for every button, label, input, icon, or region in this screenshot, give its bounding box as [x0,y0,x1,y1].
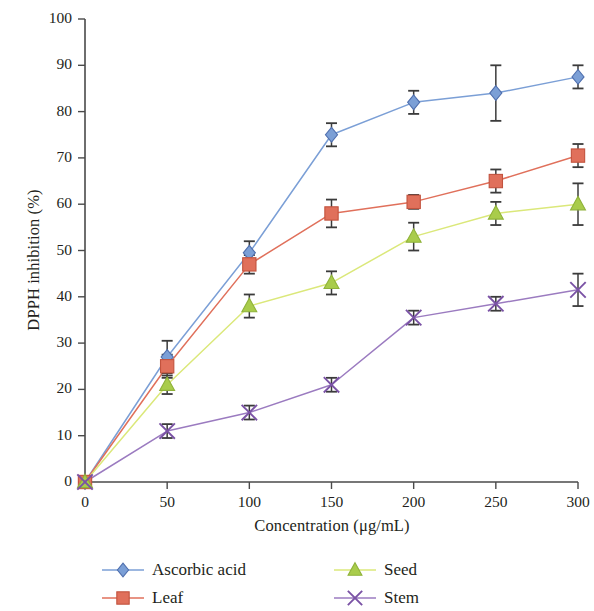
legend-label: Seed [378,560,417,580]
y-tick-label: 20 [20,379,72,397]
x-tick-label: 100 [209,493,289,511]
data-point-marker [161,360,174,373]
y-tick-label: 60 [20,194,72,212]
x-tick-label: 0 [45,493,125,511]
legend-marker-x-icon [332,587,378,609]
data-point-marker [243,258,256,271]
x-tick-label: 50 [127,493,207,511]
legend-label: Leaf [146,588,183,608]
y-tick-label: 90 [20,55,72,73]
data-point-marker [490,86,502,101]
data-point-marker [572,70,584,85]
y-tick-label: 0 [20,472,72,490]
y-tick-label: 80 [20,102,72,120]
x-tick-label: 200 [374,493,454,511]
legend-item-stem[interactable]: Stem [332,587,540,609]
legend-marker [117,592,129,604]
data-point-marker [324,275,339,288]
legend-marker [117,563,128,577]
legend-marker [348,563,362,576]
data-point-marker [325,207,338,220]
legend-marker-diamond-icon [100,559,146,581]
data-point-marker [407,195,420,208]
x-axis-label: Concentration (μg/mL) [254,516,409,535]
legend-item-ascorbic-acid[interactable]: Ascorbic acid [100,559,332,581]
legend-marker-triangle-icon [332,559,378,581]
y-tick-label: 40 [20,287,72,305]
y-tick-label: 70 [20,148,72,166]
data-point-marker [571,149,584,162]
legend-label: Stem [378,588,419,608]
legend-marker-square-icon [100,587,146,609]
data-point-marker [408,95,420,110]
y-tick-label: 100 [20,9,72,27]
chart-legend: Ascorbic acidSeedLeafStem [100,556,540,611]
y-tick-label: 10 [20,426,72,444]
x-tick-label: 150 [292,493,372,511]
series-line [85,204,578,482]
y-tick-label: 30 [20,333,72,351]
x-tick-label: 300 [538,493,594,511]
marker-layer [77,70,585,490]
data-point-marker [571,196,586,209]
data-point-marker [489,174,502,187]
legend-item-seed[interactable]: Seed [332,559,540,581]
x-tick-label: 250 [456,493,536,511]
error-bar-layer [162,65,584,438]
series-seed [85,204,578,482]
legend-label: Ascorbic acid [146,560,246,580]
dpph-inhibition-figure: DPPH inhibition (%) Concentration (μg/mL… [0,0,594,611]
y-tick-label: 50 [20,241,72,259]
legend-item-leaf[interactable]: Leaf [100,587,332,609]
x-axis-label-wrapper: Concentration (μg/mL) [85,516,579,536]
